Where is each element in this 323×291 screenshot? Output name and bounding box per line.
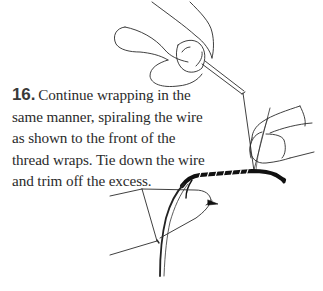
upper-hand-icon [114,2,213,87]
step-instruction: 16.Continue wrapping in the same manner,… [12,84,227,192]
wire-line [254,108,270,170]
caption-line-3: as shown to the front of the [12,127,227,149]
caption-line-4: thread wraps. Tie down the wire [12,149,227,171]
caption-text: Continue wrapping in the [38,86,190,103]
right-hand-icon [250,106,314,163]
caption-line-5: and trim off the excess. [12,170,227,192]
vise-jaws-icon [110,189,218,255]
step-number: 16. [12,85,35,104]
thread-line [243,93,254,171]
caption-line-1: 16.Continue wrapping in the [12,84,227,106]
caption-line-2: same manner, spiraling the wire [12,106,227,128]
